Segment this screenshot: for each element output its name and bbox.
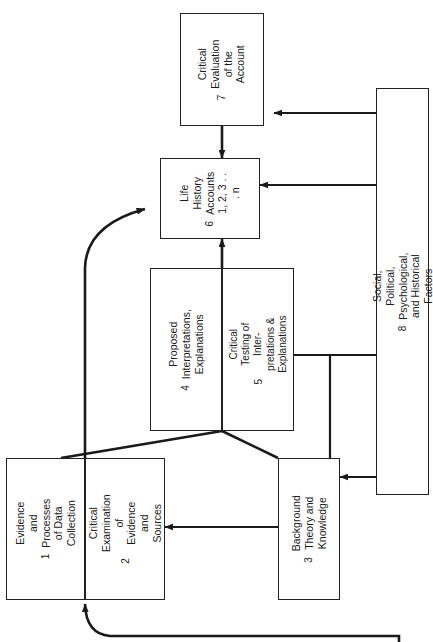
node-4-label: Proposed Interpretations, Explanations — [167, 309, 205, 379]
node-4-number: 4 — [180, 385, 192, 391]
node-5-critical-testing[interactable]: 5 Critical Testing of Inter- pretations … — [222, 268, 294, 431]
node-1-number: 1 — [40, 554, 52, 560]
node-5-number: 5 — [252, 378, 264, 384]
node-1-evidence-and-processes[interactable]: 1 Evidence and Processes of Data Collect… — [6, 458, 85, 600]
node-8-label: Social, Political, Psychological, and Hi… — [371, 252, 433, 319]
node-2-label: Critical Examination of Evidence and Sou… — [87, 494, 164, 552]
node-1-label: Evidence and Processes of Data Collectio… — [14, 499, 78, 548]
diagram-canvas: 7 Critical Evaluation of the Account 6 L… — [0, 0, 433, 642]
node-6-label: Life History Accounts 1, 2, 3 . . . n — [178, 171, 242, 214]
node-3-label: Background Theory and Knowledge — [290, 495, 328, 551]
node-5-label: Critical Testing of Inter- pretations & … — [228, 315, 289, 372]
node-8-contextual-factors[interactable]: 8 Social, Political, Psychological, and … — [376, 88, 429, 495]
node-4-proposed-interpretations[interactable]: 4 Proposed Interpretations, Explanations — [150, 268, 222, 431]
edge-8-to-12-curve — [85, 604, 399, 642]
node-3-number: 3 — [303, 557, 315, 563]
node-6-number: 6 — [204, 220, 216, 226]
node-2-number: 2 — [119, 558, 131, 564]
node-7-number: 7 — [216, 94, 228, 100]
node-8-number: 8 — [397, 325, 409, 331]
node-6-life-history-accounts[interactable]: 6 Life History Accounts 1, 2, 3 . . . n — [160, 158, 260, 239]
node-2-critical-examination[interactable]: 2 Critical Examination of Evidence and S… — [85, 458, 165, 600]
node-7-critical-evaluation[interactable]: 7 Critical Evaluation of the Account — [180, 13, 264, 126]
edge-3-to-45 — [222, 431, 278, 458]
node-3-background-theory[interactable]: 3 Background Theory and Knowledge — [278, 458, 340, 600]
node-7-label: Critical Evaluation of the Account — [196, 39, 247, 88]
